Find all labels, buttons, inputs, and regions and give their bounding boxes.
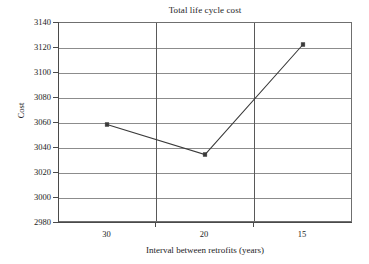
y-tick-mark-3060 bbox=[53, 122, 58, 123]
category-divider-2 bbox=[254, 23, 255, 221]
y-tick-label-2980: 2980 bbox=[34, 218, 51, 227]
gridline-3100 bbox=[59, 73, 351, 74]
gridline-3040 bbox=[59, 148, 351, 149]
plot-area bbox=[58, 22, 352, 222]
gridline-3000 bbox=[59, 198, 351, 199]
x-axis-title: Interval between retrofits (years) bbox=[58, 245, 352, 256]
y-tick-label-3040: 3040 bbox=[34, 143, 51, 152]
y-tick-mark-3080 bbox=[53, 97, 58, 98]
x-tick-label-15: 15 bbox=[272, 229, 332, 239]
y-tick-label-3120: 3120 bbox=[34, 43, 51, 52]
y-tick-mark-3100 bbox=[53, 72, 58, 73]
category-divider-1 bbox=[156, 23, 157, 221]
y-tick-mark-3120 bbox=[53, 47, 58, 48]
y-tick-label-3060: 3060 bbox=[34, 118, 51, 127]
chart-title: Total life cycle cost bbox=[58, 5, 352, 16]
gridline-3120 bbox=[59, 48, 351, 49]
y-tick-mark-3140 bbox=[53, 22, 58, 23]
gridline-3060 bbox=[59, 123, 351, 124]
y-axis-line bbox=[58, 22, 59, 223]
y-tick-mark-3020 bbox=[53, 172, 58, 173]
x-tick-label-30: 30 bbox=[77, 229, 137, 239]
y-tick-label-3100: 3100 bbox=[34, 68, 51, 77]
y-tick-label-3000: 3000 bbox=[34, 193, 51, 202]
y-tick-mark-2980 bbox=[53, 222, 58, 223]
y-tick-label-3080: 3080 bbox=[34, 93, 51, 102]
y-tick-label-3020: 3020 bbox=[34, 168, 51, 177]
x-tick-mark-2 bbox=[253, 222, 254, 227]
y-tick-mark-3000 bbox=[53, 197, 58, 198]
chart-figure: Total life cycle cost 3140 3120 3100 308… bbox=[0, 0, 369, 264]
x-tick-mark-1 bbox=[155, 222, 156, 227]
y-tick-mark-3040 bbox=[53, 147, 58, 148]
x-axis-line bbox=[58, 222, 352, 223]
y-axis-title: Cost bbox=[17, 81, 26, 141]
x-tick-label-20: 20 bbox=[174, 229, 234, 239]
gridline-3020 bbox=[59, 173, 351, 174]
gridline-3080 bbox=[59, 98, 351, 99]
y-tick-label-3140: 3140 bbox=[34, 18, 51, 27]
